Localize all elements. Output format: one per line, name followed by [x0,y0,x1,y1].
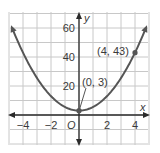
vertex-point-label: (0, 3) [82,76,108,88]
axes [8,12,150,146]
y-tick-label: 40 [63,51,75,63]
y-axis-down-arrow-icon [76,139,82,146]
origin-label: O [67,119,76,131]
x-tick-label: 2 [104,119,110,131]
point-4-43-label: (4, 43) [97,45,129,57]
x-axis-label: x [139,101,146,113]
data-point [132,50,137,55]
y-tick-label: 60 [63,22,75,34]
vertex-leader-line [79,88,86,111]
x-tick-label: −2 [45,119,58,131]
x-tick-label: 4 [132,119,138,131]
parabola-graph: y x O −4−224204060 (0, 3) (4, 43) [0,0,160,153]
y-tick-label: 20 [63,80,75,92]
x-tick-label: −4 [17,119,30,131]
